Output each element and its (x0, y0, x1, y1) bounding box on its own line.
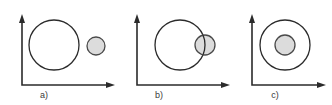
panel-a-y-axis-arrowhead (19, 14, 25, 23)
panel-a-large-circle (29, 20, 79, 70)
panel-b: b) (134, 14, 230, 100)
panel-a: a) (19, 14, 115, 100)
panel-b-label: b) (155, 90, 163, 100)
figure-canvas: a)b)c) (0, 0, 332, 105)
circle-relation-figure: a)b)c) (0, 0, 332, 105)
panel-a-label: a) (40, 90, 48, 100)
panel-a-small-circle (87, 37, 105, 55)
panel-b-y-axis-arrowhead (134, 14, 140, 23)
panel-c-y-axis-arrowhead (249, 14, 255, 23)
panel-c: c) (249, 14, 326, 100)
panel-c-label: c) (271, 90, 279, 100)
panel-b-x-axis-arrowhead (221, 82, 230, 88)
panels-group: a)b)c) (19, 14, 326, 100)
panel-c-x-axis-arrowhead (317, 82, 326, 88)
panel-a-x-axis-arrowhead (106, 82, 115, 88)
panel-c-small-circle (275, 35, 295, 55)
